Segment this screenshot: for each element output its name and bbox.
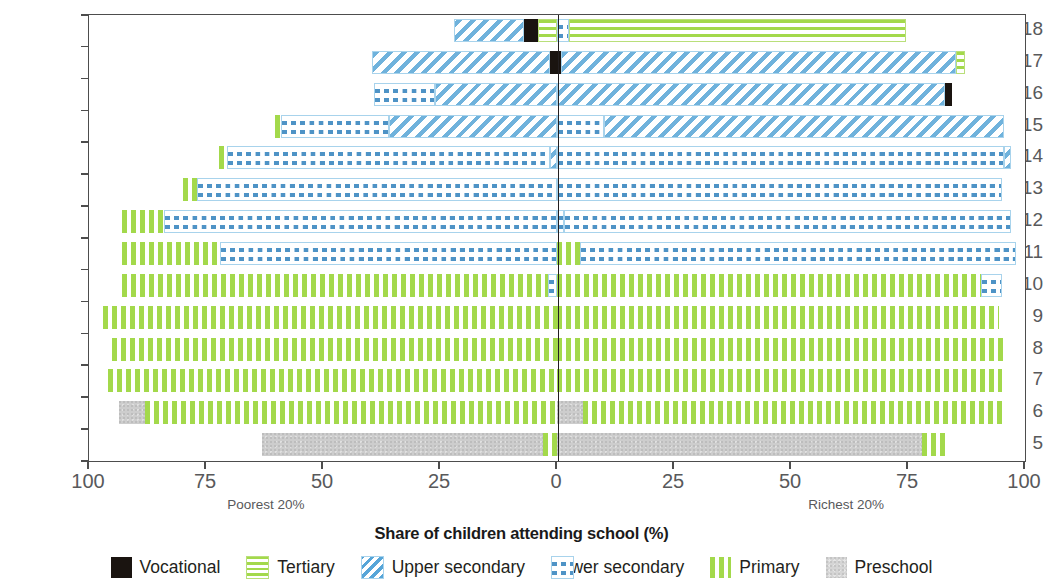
legend-item-primary[interactable]: Primary bbox=[710, 557, 799, 578]
bar-segment-lower bbox=[580, 242, 1015, 265]
x-axis-tick-label: 75 bbox=[872, 470, 942, 493]
legend-item-tertiary[interactable]: Tertiary bbox=[246, 556, 334, 579]
tertiary-swatch-icon bbox=[246, 556, 269, 579]
bar-segment-lower bbox=[564, 210, 1011, 233]
x-axis-tick-label: 50 bbox=[755, 470, 825, 493]
bar-segment-lower bbox=[164, 210, 557, 233]
bar-segment-lower bbox=[557, 146, 1004, 169]
bar-segment-upper bbox=[604, 115, 1004, 138]
bar-segment-vocational bbox=[550, 51, 557, 74]
bar-segment-vocational bbox=[945, 83, 952, 106]
richest-group-label: Richest 20% bbox=[766, 497, 926, 512]
bar-segment-lower bbox=[557, 115, 604, 138]
bar-segment-upper bbox=[550, 146, 557, 169]
x-axis-tick-label: 75 bbox=[170, 470, 240, 493]
legend-label: Primary bbox=[739, 557, 799, 578]
legend-label: Upper secondary bbox=[392, 557, 525, 578]
bar-segment-preschool bbox=[119, 401, 145, 424]
bar-segment-primary bbox=[557, 338, 1006, 361]
x-axis-tick-label: 100 bbox=[989, 470, 1048, 493]
bar-segment-upper bbox=[1004, 146, 1011, 169]
legend-item-upper[interactable]: Upper secondary bbox=[361, 556, 525, 579]
bar-segment-preschool bbox=[557, 401, 583, 424]
bar-segment-lower bbox=[220, 242, 557, 265]
bar-segment-upper bbox=[454, 19, 524, 42]
zero-axis-line bbox=[558, 15, 560, 461]
bar-segment-primary bbox=[557, 306, 999, 329]
bar-segment-lower bbox=[227, 146, 550, 169]
bar-segment-upper bbox=[372, 51, 550, 74]
upper-swatch-icon bbox=[361, 556, 384, 579]
bar-segment-preschool bbox=[262, 433, 543, 456]
bar-segment-upper bbox=[389, 115, 557, 138]
bar-segment-primary bbox=[922, 433, 945, 456]
poorest-group-label: Poorest 20% bbox=[186, 497, 346, 512]
bar-segment-upper bbox=[557, 83, 945, 106]
preschool-swatch-icon bbox=[826, 557, 847, 578]
bar-segment-upper bbox=[561, 51, 956, 74]
bar-segment-preschool bbox=[557, 433, 922, 456]
bar-segment-primary bbox=[112, 338, 557, 361]
legend-item-lower[interactable]: Lower secondary bbox=[551, 557, 684, 578]
x-axis-tick-label: 25 bbox=[638, 470, 708, 493]
x-axis-tick-label: 25 bbox=[404, 470, 474, 493]
vocational-swatch-icon bbox=[111, 557, 132, 578]
bar-segment-lower bbox=[374, 83, 435, 106]
legend-label: Tertiary bbox=[277, 557, 334, 578]
legend-label: Preschool bbox=[855, 557, 933, 578]
bar-segment-primary bbox=[557, 369, 1002, 392]
bar-segment-lower bbox=[197, 178, 557, 201]
legend-item-vocational[interactable]: Vocational bbox=[111, 557, 221, 578]
x-axis-tick-label: 0 bbox=[521, 470, 591, 493]
bar-segment-primary bbox=[557, 242, 580, 265]
bar-segment-primary bbox=[557, 274, 981, 297]
bar-segment-primary bbox=[122, 210, 164, 233]
chart-legend: VocationalTertiaryUpper secondaryLower s… bbox=[0, 552, 1043, 583]
bar-segment-lower bbox=[981, 274, 1002, 297]
bar-segment-primary bbox=[583, 401, 1007, 424]
x-axis-tick-label: 100 bbox=[53, 470, 123, 493]
bar-segment-tertiary bbox=[956, 51, 964, 74]
bar-segment-upper bbox=[435, 83, 557, 106]
x-axis-title: Share of children attending school (%) bbox=[0, 524, 1043, 543]
bar-segment-primary bbox=[219, 146, 227, 169]
bar-segment-primary bbox=[275, 115, 281, 138]
lower-swatch-icon bbox=[551, 556, 574, 579]
bar-segment-primary bbox=[103, 306, 557, 329]
bar-segment-primary bbox=[122, 242, 220, 265]
primary-swatch-icon bbox=[710, 557, 731, 578]
legend-label: Vocational bbox=[140, 557, 221, 578]
bar-segment-primary bbox=[145, 401, 557, 424]
plot-area bbox=[88, 14, 1026, 462]
bar-segment-primary bbox=[543, 433, 557, 456]
bar-segment-lower bbox=[557, 178, 1002, 201]
bar-segment-tertiary bbox=[569, 19, 906, 42]
bar-segment-vocational bbox=[524, 19, 538, 42]
bar-segment-primary bbox=[122, 274, 548, 297]
x-axis-tick-label: 50 bbox=[287, 470, 357, 493]
bar-segment-tertiary bbox=[538, 19, 557, 42]
legend-item-preschool[interactable]: Preschool bbox=[826, 557, 933, 578]
bar-segment-lower bbox=[548, 274, 557, 297]
bar-segment-lower bbox=[281, 115, 389, 138]
bar-segment-primary bbox=[108, 369, 557, 392]
bar-segment-primary bbox=[183, 178, 197, 201]
